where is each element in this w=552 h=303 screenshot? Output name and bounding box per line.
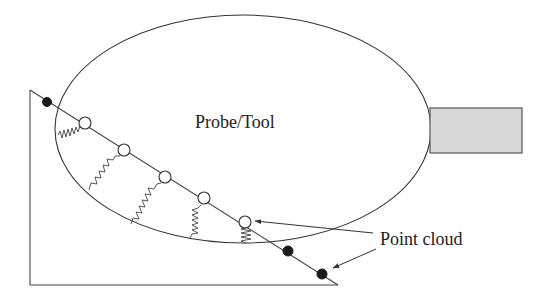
arrow-to-filled-point <box>333 249 376 268</box>
open-point-2 <box>118 144 130 156</box>
spring-4 <box>190 205 201 238</box>
springs <box>58 126 251 243</box>
spring-3 <box>131 183 161 224</box>
open-point-4 <box>198 192 210 204</box>
spring-5 <box>241 228 251 243</box>
wedge-slope-edge <box>30 90 338 285</box>
filled-point-3 <box>317 269 327 279</box>
spring-2 <box>89 156 120 190</box>
open-point-3 <box>159 171 171 183</box>
open-point-1 <box>79 117 91 129</box>
probe-label: Probe/Tool <box>195 112 275 132</box>
arrow-to-open-point <box>255 221 373 233</box>
spring-1 <box>58 126 80 138</box>
probe-point-cloud-diagram: Probe/Tool Point cloud <box>0 0 552 303</box>
probe-handle <box>430 108 522 153</box>
point-cloud-label: Point cloud <box>380 229 463 249</box>
surface-wedge <box>30 90 338 285</box>
open-points <box>79 117 251 228</box>
open-point-5 <box>239 216 251 228</box>
filled-point-1 <box>43 98 52 107</box>
filled-point-2 <box>283 246 293 256</box>
